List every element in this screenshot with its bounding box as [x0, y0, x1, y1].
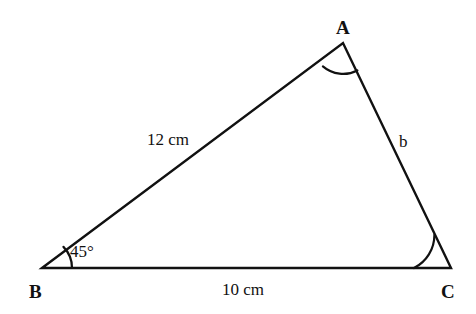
side-label-bc: 10 cm — [222, 281, 264, 298]
angle-arc-c — [414, 235, 434, 268]
triangle-diagram: A B C 12 cm 10 cm b 45° — [0, 0, 476, 314]
triangle-figure — [0, 0, 476, 314]
side-label-ab: 12 cm — [147, 131, 189, 148]
triangle-outline — [42, 43, 451, 268]
angle-label-b: 45° — [70, 243, 94, 260]
angle-arc-a — [323, 66, 357, 73]
vertex-label-c: C — [441, 282, 455, 301]
vertex-label-a: A — [336, 18, 350, 37]
vertex-label-b: B — [29, 282, 42, 301]
side-label-ac: b — [399, 133, 408, 150]
